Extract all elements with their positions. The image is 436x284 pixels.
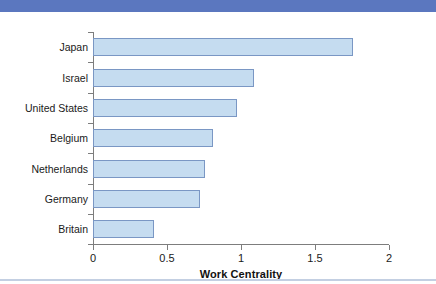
bar-germany: [93, 190, 200, 208]
bar-britain: [93, 220, 154, 238]
y-axis-tick: [88, 184, 93, 185]
y-axis-tick: [88, 214, 93, 215]
bar-japan: [93, 38, 353, 56]
x-axis-tick-label: 1.5: [295, 252, 335, 265]
y-axis-label-united-states: United States: [0, 102, 88, 114]
y-axis-tick: [88, 93, 93, 94]
x-axis-tick-label: 0: [73, 252, 113, 265]
y-axis-label-netherlands: Netherlands: [0, 163, 88, 175]
x-axis-tick: [389, 245, 390, 250]
plot-area: Japan Israel United States Belgium Nethe…: [0, 12, 436, 279]
x-axis-tick-label: 0.5: [147, 252, 187, 265]
category-label: Belgium: [2, 132, 88, 144]
y-axis-label-belgium: Belgium: [0, 132, 88, 144]
y-axis-tick: [88, 123, 93, 124]
bar-united-states: [93, 99, 237, 117]
x-axis-tick-label: 1: [221, 252, 261, 265]
x-axis-tick: [167, 245, 168, 250]
figure-container: Japan Israel United States Belgium Nethe…: [0, 0, 436, 284]
y-axis-tick: [88, 62, 93, 63]
x-axis-tick: [93, 245, 94, 250]
y-axis-label-japan: Japan: [0, 41, 88, 53]
category-label: Japan: [2, 41, 88, 53]
x-axis-tick: [241, 245, 242, 250]
y-axis-tick: [88, 153, 93, 154]
y-axis-label-israel: Israel: [0, 72, 88, 84]
bar-israel: [93, 69, 254, 87]
y-axis-label-germany: Germany: [0, 193, 88, 205]
y-axis-label-britain: Britain: [0, 223, 88, 235]
top-decorative-band: [0, 0, 436, 12]
bar-belgium: [93, 129, 213, 147]
bar-netherlands: [93, 160, 205, 178]
x-axis-tick: [315, 245, 316, 250]
category-label: Germany: [2, 193, 88, 205]
x-axis-tick-label: 2: [369, 252, 409, 265]
category-label: Britain: [2, 223, 88, 235]
category-label: Netherlands: [2, 163, 88, 175]
category-label: Israel: [2, 72, 88, 84]
bottom-decorative-rule: [0, 279, 436, 281]
y-axis-tick: [88, 32, 93, 33]
category-label: United States: [2, 102, 88, 114]
